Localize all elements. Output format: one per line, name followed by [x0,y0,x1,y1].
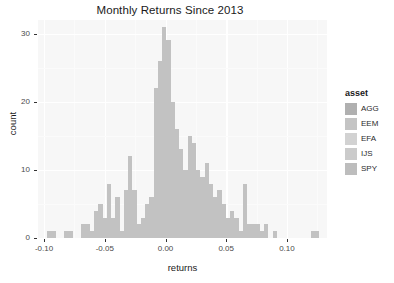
y-tick-mark [34,170,37,171]
legend-swatch-icon [345,118,357,130]
legend-item-label: SPY [361,164,377,173]
legend-item-label: AGG [361,104,379,113]
x-tick-mark [287,239,288,242]
histogram-bar [315,231,319,238]
legend-item-efa[interactable]: EFA [345,131,393,146]
histogram-bar [69,231,73,238]
histogram-bar [264,224,268,238]
x-tick-label: 0.00 [146,244,186,253]
x-axis-title: returns [38,262,327,273]
gridline-major-y [38,238,327,239]
legend-title: asset [345,88,393,98]
y-tick-label: 10 [8,165,30,174]
x-tick-label: 0.10 [267,244,307,253]
y-tick-label: 0 [8,233,30,242]
y-tick-mark [34,238,37,239]
histogram-bar [52,231,56,238]
x-tick-label: 0.05 [206,244,246,253]
legend-swatch-icon [345,148,357,160]
x-tick-mark [105,239,106,242]
histogram-bar [273,231,277,238]
chart-title: Monthly Returns Since 2013 [0,4,340,16]
y-axis-title: count [7,94,18,154]
legend: asset AGGEEMEFAIJSSPY [345,88,393,176]
legend-item-label: EFA [361,134,376,143]
legend-item-label: IJS [361,149,373,158]
x-tick-mark [166,239,167,242]
x-tick-mark [226,239,227,242]
legend-item-eem[interactable]: EEM [345,116,393,131]
legend-item-agg[interactable]: AGG [345,101,393,116]
x-tick-mark [44,239,45,242]
legend-items: AGGEEMEFAIJSSPY [345,101,393,176]
y-tick-mark [34,34,37,35]
legend-swatch-icon [345,133,357,145]
chart-container: Monthly Returns Since 2013 -0.10-0.050.0… [0,0,394,283]
y-tick-mark [34,102,37,103]
x-tick-label: -0.05 [85,244,125,253]
x-tick-label: -0.10 [24,244,64,253]
legend-swatch-icon [345,103,357,115]
legend-item-spy[interactable]: SPY [345,161,393,176]
y-tick-label: 30 [8,29,30,38]
legend-item-ijs[interactable]: IJS [345,146,393,161]
legend-swatch-icon [345,163,357,175]
histogram-bars [38,20,327,238]
plot-panel [38,20,327,238]
legend-item-label: EEM [361,119,378,128]
